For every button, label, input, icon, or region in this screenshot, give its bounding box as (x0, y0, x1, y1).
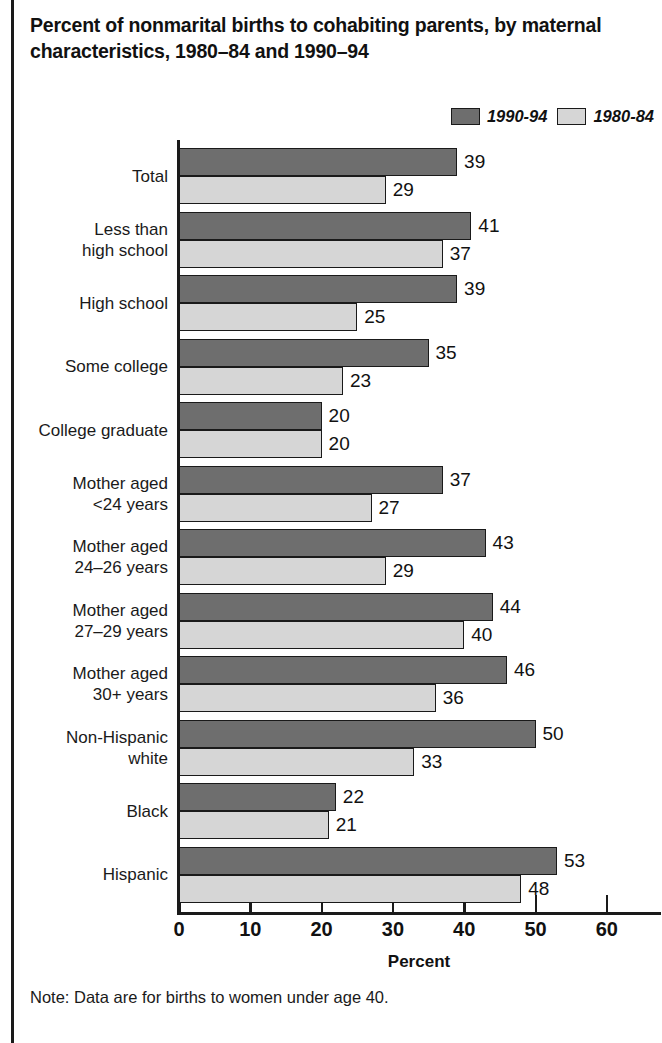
bar-value-label: 21 (336, 814, 357, 836)
page-title: Percent of nonmarital births to cohabiti… (30, 12, 630, 64)
category-label: College graduate (0, 420, 168, 441)
category-label-line: high school (0, 240, 168, 261)
bar-value-label: 27 (379, 497, 400, 519)
category-label: Mother aged<24 years (0, 473, 168, 515)
category-label-line: College graduate (0, 420, 168, 441)
category-label-line: Non-Hispanic (0, 727, 168, 748)
figure-page: Percent of nonmarital births to cohabiti… (0, 0, 662, 1043)
x-tick-label-10: 10 (228, 918, 272, 941)
bar-value-label: 22 (343, 786, 364, 808)
category-label: Non-Hispanicwhite (0, 727, 168, 769)
bar-1990-94 (179, 275, 457, 303)
bar-1990-94 (179, 656, 507, 684)
bar-value-label: 20 (329, 433, 350, 455)
bar-1980-84 (179, 430, 322, 458)
bar-value-label: 53 (564, 850, 585, 872)
category-label: Less thanhigh school (0, 219, 168, 261)
bar-value-label: 20 (329, 405, 350, 427)
bar-1990-94 (179, 212, 471, 240)
figure-note: Note: Data are for births to women under… (30, 988, 389, 1007)
bar-1990-94 (179, 466, 443, 494)
category-label-line: Mother aged (0, 473, 168, 494)
x-tick-label-40: 40 (442, 918, 486, 941)
bar-1980-84 (179, 621, 464, 649)
category-label: High school (0, 293, 168, 314)
chart-plot-area: 0102030405060 Total3929Less thanhigh sch… (0, 140, 662, 915)
bar-value-label: 36 (443, 687, 464, 709)
light-gray-swatch-icon (557, 108, 586, 125)
bar-value-label: 50 (543, 723, 564, 745)
category-label-line: Mother aged (0, 600, 168, 621)
legend-item-1990-94: 1990-94 (451, 107, 548, 126)
category-label: Total (0, 166, 168, 187)
bar-1980-84 (179, 557, 386, 585)
bar-1980-84 (179, 748, 414, 776)
bar-1980-84 (179, 176, 386, 204)
category-label-line: Mother aged (0, 663, 168, 684)
category-label-line: Less than (0, 219, 168, 240)
category-label: Some college (0, 356, 168, 377)
category-label: Mother aged30+ years (0, 663, 168, 705)
bar-1990-94 (179, 529, 486, 557)
x-tick-label-20: 20 (300, 918, 344, 941)
bar-value-label: 25 (364, 306, 385, 328)
legend-item-1980-84: 1980-84 (557, 107, 654, 126)
category-label-line: Black (0, 801, 168, 822)
bar-value-label: 48 (528, 878, 549, 900)
category-label-line: High school (0, 293, 168, 314)
bar-value-label: 35 (436, 342, 457, 364)
bar-1990-94 (179, 847, 557, 875)
category-label: Mother aged24–26 years (0, 536, 168, 578)
bar-1990-94 (179, 339, 429, 367)
bar-1980-84 (179, 240, 443, 268)
bar-value-label: 39 (464, 278, 485, 300)
x-axis-title: Percent (177, 952, 661, 972)
x-tick-label-0: 0 (157, 918, 201, 941)
category-label: Mother aged27–29 years (0, 600, 168, 642)
category-label-line: 24–26 years (0, 557, 168, 578)
category-label-line: Some college (0, 356, 168, 377)
bar-1980-84 (179, 494, 372, 522)
bar-value-label: 37 (450, 469, 471, 491)
bar-value-label: 29 (393, 179, 414, 201)
category-label-line: 30+ years (0, 684, 168, 705)
bar-value-label: 44 (500, 596, 521, 618)
x-tick-60 (606, 895, 609, 913)
bar-1990-94 (179, 720, 536, 748)
bar-1980-84 (179, 684, 436, 712)
bar-1980-84 (179, 875, 521, 903)
bar-value-label: 43 (493, 532, 514, 554)
category-label-line: Mother aged (0, 536, 168, 557)
bar-value-label: 23 (350, 370, 371, 392)
bar-value-label: 33 (421, 751, 442, 773)
x-tick-label-60: 60 (585, 918, 629, 941)
category-label: Hispanic (0, 864, 168, 885)
category-label-line: Total (0, 166, 168, 187)
bar-1980-84 (179, 303, 357, 331)
bar-value-label: 29 (393, 560, 414, 582)
dark-gray-swatch-icon (451, 108, 480, 125)
x-tick-label-30: 30 (371, 918, 415, 941)
bar-value-label: 40 (471, 624, 492, 646)
x-tick-label-50: 50 (514, 918, 558, 941)
category-label-line: 27–29 years (0, 621, 168, 642)
bar-value-label: 39 (464, 151, 485, 173)
bar-1990-94 (179, 402, 322, 430)
bar-value-label: 41 (478, 215, 499, 237)
bar-1990-94 (179, 593, 493, 621)
category-label-line: white (0, 748, 168, 769)
category-label-line: Hispanic (0, 864, 168, 885)
bar-1980-84 (179, 367, 343, 395)
bar-1980-84 (179, 811, 329, 839)
category-label: Black (0, 801, 168, 822)
category-label-line: <24 years (0, 494, 168, 515)
bar-1990-94 (179, 783, 336, 811)
legend-label-1980-84: 1980-84 (593, 107, 654, 126)
legend-label-1990-94: 1990-94 (487, 107, 548, 126)
chart-legend: 1990-94 1980-84 (451, 107, 654, 126)
bar-value-label: 46 (514, 659, 535, 681)
bar-1990-94 (179, 148, 457, 176)
bar-value-label: 37 (450, 243, 471, 265)
